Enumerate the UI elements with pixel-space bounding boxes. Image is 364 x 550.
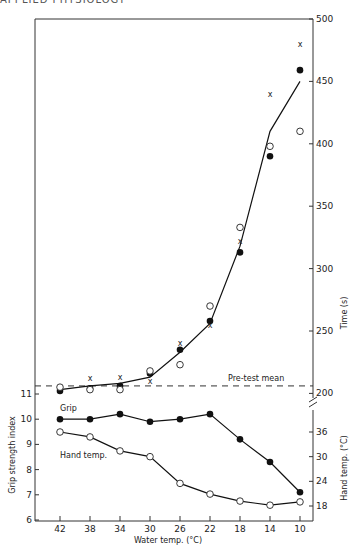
hand-temp-marker xyxy=(147,453,154,460)
time-tick-label: 300 xyxy=(316,264,333,274)
x-tick-label: 38 xyxy=(84,524,96,534)
hand-temp-marker xyxy=(57,429,64,436)
hand-temp-marker xyxy=(267,502,274,509)
open-circle-marker xyxy=(207,303,214,310)
axis-labels: 2002503003504004505001824303667891011423… xyxy=(8,14,349,545)
hand-temp-marker xyxy=(297,499,304,506)
open-circle-marker xyxy=(237,224,244,231)
lower-panel-series: GripHand temp. xyxy=(57,404,304,508)
x-tick-label: 22 xyxy=(204,524,215,534)
filled-circle-marker xyxy=(267,153,274,160)
time-tick-label: 500 xyxy=(316,14,333,24)
x-tick-label: 18 xyxy=(234,524,246,534)
time-tick-label: 450 xyxy=(316,76,333,86)
grip-tick-label: 8 xyxy=(26,465,32,475)
upper-panel-series: xxxxxxxx xyxy=(57,40,304,394)
hand-temp-marker xyxy=(177,480,184,487)
hand-temp-marker xyxy=(207,491,214,498)
time-tick-label: 250 xyxy=(316,326,333,336)
cross-marker: x xyxy=(298,40,303,49)
hand-temp-marker xyxy=(87,434,94,441)
open-circle-marker xyxy=(267,143,274,150)
pretest-label: Pre-test mean xyxy=(228,374,284,383)
open-circle-marker xyxy=(87,386,94,393)
open-circle-marker xyxy=(117,386,124,393)
grip-marker xyxy=(237,436,244,443)
grip-tick-label: 10 xyxy=(21,414,33,424)
filled-circle-marker xyxy=(297,67,304,74)
hand-temp-marker xyxy=(117,448,124,455)
grip-tick-label: 11 xyxy=(21,389,32,399)
cross-marker: x xyxy=(118,373,123,382)
x-tick-label: 14 xyxy=(264,524,276,534)
grip-marker xyxy=(207,411,214,418)
cross-marker: x xyxy=(238,237,243,246)
hand-temp-marker xyxy=(237,498,244,505)
x-tick-label: 26 xyxy=(174,524,186,534)
hand-temp-tick-label: 18 xyxy=(316,501,328,511)
grip-axis-title: Grip strength index xyxy=(8,416,17,494)
grip-marker xyxy=(117,411,124,418)
time-tick-label: 200 xyxy=(316,388,333,398)
time-tick-label: 400 xyxy=(316,139,333,149)
cross-marker: x xyxy=(268,90,273,99)
open-circle-marker xyxy=(177,361,184,368)
hand-temp-tick-label: 30 xyxy=(316,452,328,462)
hand-temp-tick-label: 24 xyxy=(316,476,328,486)
grip-series-label: Grip xyxy=(60,404,77,413)
cross-marker: x xyxy=(178,339,183,348)
cross-marker: x xyxy=(88,374,93,383)
filled-circle-marker xyxy=(237,249,244,256)
x-axis-title: Water temp. (°C) xyxy=(134,536,202,545)
grip-marker xyxy=(147,418,154,425)
hand-temp-axis-title: Hand temp. (°C) xyxy=(340,435,349,500)
time-tick-label: 350 xyxy=(316,201,333,211)
grip-tick-label: 7 xyxy=(26,490,32,500)
grip-marker xyxy=(57,416,64,423)
grip-tick-label: 9 xyxy=(26,439,32,449)
open-circle-marker xyxy=(57,384,64,391)
chart: 2002503003504004505001824303667891011423… xyxy=(0,0,364,550)
open-circle-marker xyxy=(297,128,304,135)
x-tick-label: 42 xyxy=(54,524,65,534)
time-axis-title: Time (s) xyxy=(340,297,349,331)
x-tick-label: 10 xyxy=(294,524,306,534)
x-tick-label: 34 xyxy=(114,524,126,534)
plot-frame xyxy=(35,19,317,521)
grip-marker xyxy=(87,416,94,423)
hand-temp-line xyxy=(60,432,300,505)
x-tick-label: 30 xyxy=(144,524,156,534)
hand-temp-tick-label: 36 xyxy=(316,427,328,437)
grip-marker xyxy=(297,489,304,496)
grip-tick-label: 6 xyxy=(26,515,32,525)
pretest-mean-line: Pre-test mean xyxy=(35,374,313,386)
grip-marker xyxy=(177,416,184,423)
cross-marker: x xyxy=(148,377,153,386)
hand-temp-series-label: Hand temp. xyxy=(60,451,107,460)
cross-marker: x xyxy=(208,321,213,330)
open-circle-marker xyxy=(147,368,154,375)
grip-marker xyxy=(267,459,274,466)
